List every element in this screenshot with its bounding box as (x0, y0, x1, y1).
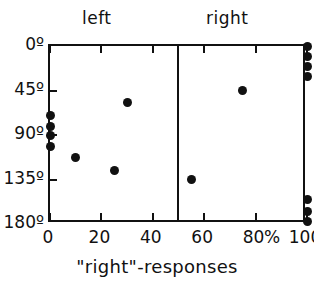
x-tick (203, 213, 205, 220)
data-point (46, 131, 55, 140)
y-tick-label: 135º (4, 168, 44, 188)
x-tick (100, 46, 102, 53)
panel-title-left: left (82, 8, 112, 28)
data-point (110, 166, 119, 175)
data-point (303, 217, 312, 226)
x-tick-label: 20 (89, 227, 111, 247)
percent-unit-label: % (264, 227, 280, 247)
y-tick (50, 90, 57, 92)
x-tick (152, 46, 154, 53)
data-point (46, 111, 55, 120)
plot-area (48, 44, 305, 222)
y-tick-label: 90º (14, 123, 44, 143)
data-point (303, 195, 312, 204)
data-point (303, 52, 312, 61)
y-axis-tick-labels: 0º45º90º135º180º (0, 44, 44, 222)
x-tick (100, 213, 102, 220)
data-point (238, 86, 247, 95)
data-point (303, 207, 312, 216)
x-tick (255, 213, 257, 220)
data-point (46, 142, 55, 151)
x-tick-label: 40 (140, 227, 162, 247)
data-point (303, 62, 312, 71)
x-tick-label: 100 (289, 227, 314, 247)
data-point (187, 175, 196, 184)
y-tick-label: 180º (4, 212, 44, 232)
x-axis-caption: "right"-responses (0, 256, 314, 277)
x-tick (49, 213, 51, 220)
panel-title-right: right (206, 8, 248, 28)
data-point (303, 42, 312, 51)
x-tick (255, 46, 257, 53)
data-point (71, 153, 80, 162)
x-tick (49, 46, 51, 53)
y-tick (50, 179, 57, 181)
data-point (303, 72, 312, 81)
x-tick-label: 0 (43, 227, 54, 247)
x-tick-label: 60 (191, 227, 213, 247)
x-tick (203, 46, 205, 53)
data-point (46, 122, 55, 131)
x-tick (152, 213, 154, 220)
y-tick-label: 45º (14, 79, 44, 99)
panel-divider (177, 46, 179, 220)
scatter-figure: left right 0º45º90º135º180º 020406080100… (0, 0, 314, 289)
data-point (123, 98, 132, 107)
x-tick-label: 80 (243, 227, 265, 247)
y-tick-label: 0º (25, 34, 44, 54)
